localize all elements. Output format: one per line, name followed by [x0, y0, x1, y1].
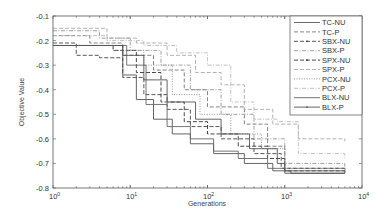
y-tick-labels: -0.1 -0.2 -0.3 -0.4 -0.5 -0.6 -0.7 -0.8 — [36, 12, 49, 193]
y-tick-label: -0.3 — [36, 61, 49, 70]
convergence-chart: -0.1 -0.2 -0.3 -0.4 -0.5 -0.6 -0.7 -0.8 … — [0, 0, 387, 216]
y-tick-label: -0.8 — [36, 184, 49, 193]
legend-label: TC-NU — [322, 18, 345, 27]
x-tick-label: 100 — [49, 191, 60, 201]
y-tick-label: -0.1 — [36, 12, 49, 21]
x-tick-label: 101 — [126, 191, 137, 201]
legend: TC-NUTC-PSBX-NUSBX-PSPX-NUSPX-PPCX-NUPCX… — [290, 16, 362, 115]
y-tick-label: -0.2 — [36, 37, 49, 46]
y-axis-title: Objective Value — [18, 78, 26, 127]
legend-label: SBX-P — [322, 46, 345, 55]
legend-label: PCX-NU — [322, 75, 351, 84]
legend-label: BLX-P — [322, 103, 344, 112]
legend-label: TC-P — [322, 28, 340, 37]
y-tick-label: -0.5 — [36, 110, 49, 119]
x-tick-label: 103 — [281, 191, 292, 201]
legend-label: SPX-P — [322, 65, 345, 74]
legend-label: BLX-NU — [322, 93, 350, 102]
y-tick-label: -0.4 — [36, 86, 49, 95]
x-tick-label: 104 — [358, 191, 369, 201]
y-tick-label: -0.7 — [36, 159, 49, 168]
legend-label: SPX-NU — [322, 56, 350, 65]
legend-label: SBX-NU — [322, 37, 350, 46]
x-axis-title: Generations — [188, 200, 227, 207]
legend-label: PCX-P — [322, 84, 345, 93]
y-tick-label: -0.6 — [36, 135, 49, 144]
